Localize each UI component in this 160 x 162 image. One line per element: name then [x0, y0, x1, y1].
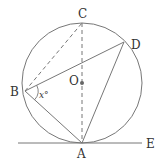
label-D: D — [131, 38, 141, 52]
label-B: B — [10, 85, 19, 99]
chord-DA — [82, 42, 124, 143]
center-dot-O — [80, 81, 84, 85]
label-O: O — [69, 74, 79, 88]
label-A: A — [76, 147, 86, 161]
chord-BA — [25, 91, 82, 143]
label-C: C — [78, 7, 87, 21]
geometry-diagram: C D B O A E x° — [0, 0, 160, 162]
label-E: E — [146, 137, 155, 151]
angle-arc-B — [35, 85, 38, 100]
angle-label-x: x° — [39, 90, 49, 100]
diagram-canvas: C D B O A E x° — [0, 0, 160, 162]
